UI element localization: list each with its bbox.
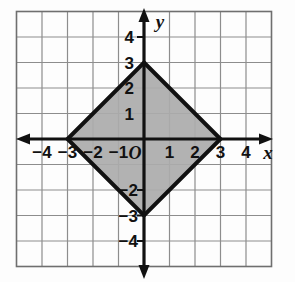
- x-tick-label--1: −1: [109, 143, 128, 162]
- y-tick-label-4: 4: [125, 28, 135, 47]
- x-tick-label-3: 3: [216, 143, 225, 162]
- coordinate-plane-svg: −4 −3 −2 −1 O 1 2 3 4 x 4 3 2 1 −2 −3 −4…: [0, 0, 295, 282]
- x-tick-label--3: −3: [58, 143, 77, 162]
- x-axis-label: x: [262, 142, 273, 163]
- y-tick-label--4: −4: [119, 232, 139, 251]
- y-tick-label-1: 1: [125, 105, 134, 124]
- y-tick-label-2: 2: [125, 79, 134, 98]
- y-tick-label--2: −2: [119, 181, 138, 200]
- y-tick-label--3: −3: [119, 207, 138, 226]
- origin-label: O: [129, 143, 142, 163]
- y-tick-label-3: 3: [125, 54, 134, 73]
- x-tick-label--4: −4: [32, 143, 52, 162]
- x-tick-label-4: 4: [241, 143, 251, 162]
- x-tick-label--2: −2: [83, 143, 102, 162]
- y-axis-arrow-down: [139, 265, 150, 279]
- y-axis-label: y: [154, 11, 165, 32]
- coordinate-plane-figure: −4 −3 −2 −1 O 1 2 3 4 x 4 3 2 1 −2 −3 −4…: [0, 0, 295, 282]
- x-tick-label-2: 2: [190, 143, 199, 162]
- x-tick-label-1: 1: [165, 143, 174, 162]
